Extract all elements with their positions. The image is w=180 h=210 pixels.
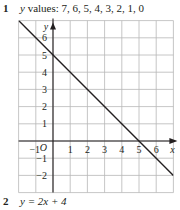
origin-label: O [40, 142, 47, 153]
y-tick-label: 2 [42, 101, 47, 112]
y-tick-label: −2 [36, 170, 47, 181]
x-tick-label: 1 [68, 144, 73, 155]
y-tick-label: 6 [42, 32, 47, 43]
question-2-text: y = 2x + 4 [20, 195, 67, 207]
coordinate-graph: −1123456654321−1−2Oxy [0, 0, 180, 210]
x-axis-label: x [169, 144, 175, 155]
y-tick-label: 1 [42, 118, 47, 129]
y-axis-arrow-icon [50, 23, 56, 30]
x-tick-label: 5 [137, 144, 142, 155]
x-tick-label: 4 [119, 144, 124, 155]
y-tick-label: 5 [42, 50, 47, 61]
x-tick-label: 6 [154, 144, 159, 155]
x-tick-label: 2 [85, 144, 90, 155]
y-tick-label: −1 [36, 153, 47, 164]
x-tick-label: 3 [102, 144, 107, 155]
question-number-2: 2 [3, 195, 9, 207]
y-tick-label: 3 [42, 84, 47, 95]
y-axis-label: y [43, 21, 49, 32]
y-tick-label: 4 [42, 67, 47, 78]
